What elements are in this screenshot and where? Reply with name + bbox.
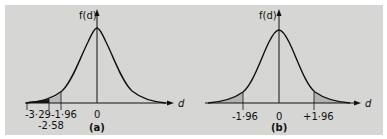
x-axis-arrow-icon — [167, 101, 174, 106]
panel-label: (b) — [271, 122, 287, 133]
y-axis-label: f(d) — [79, 10, 97, 21]
tick-label: 0 — [94, 109, 100, 120]
shaded-region-left-tail — [208, 92, 243, 103]
panel-a: f(d) d -3·29 -2·58 -1·96 0 (a) — [25, 9, 185, 133]
tick-label: -1·96 — [232, 111, 258, 122]
shaded-region-right-tail — [314, 92, 349, 103]
figure: f(d) d -3·29 -2·58 -1·96 0 (a) f(d) d -1… — [0, 0, 387, 139]
x-axis-arrow-icon — [354, 101, 361, 106]
y-axis-label: f(d) — [259, 10, 277, 21]
normal-curve — [26, 28, 166, 103]
tick-label: 0 — [276, 111, 282, 122]
x-axis-label: d — [365, 98, 372, 109]
x-axis-label: d — [178, 98, 185, 109]
panel-b: f(d) d -1·96 0 +1·96 (b) — [205, 9, 372, 133]
tick-label: +1·96 — [303, 111, 334, 122]
tick-label: -2·58 — [38, 120, 64, 131]
tick-label: -1·96 — [51, 109, 77, 120]
tick-label: -3·29 — [25, 109, 51, 120]
y-axis-arrow-icon — [277, 9, 282, 16]
panel-label: (a) — [89, 122, 105, 133]
